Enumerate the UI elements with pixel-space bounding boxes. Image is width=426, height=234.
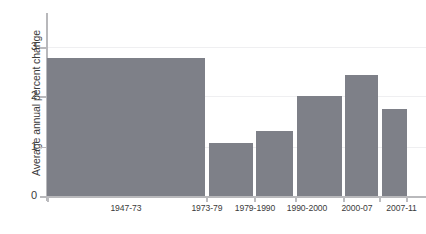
x-tick-mark-5 bbox=[379, 196, 381, 202]
x-category-label-1973-79: 1973-79 bbox=[183, 203, 231, 213]
y-tick-label-2: 2 bbox=[7, 90, 37, 101]
bar-1979-1990 bbox=[256, 131, 293, 196]
x-tick-mark-3 bbox=[295, 196, 297, 202]
x-category-label-1947-73: 1947-73 bbox=[47, 203, 205, 213]
bar-2007-11 bbox=[382, 109, 407, 196]
y-tick-label-1: 1 bbox=[7, 141, 37, 152]
x-category-label-2007-11: 2007-11 bbox=[379, 203, 424, 213]
plot-area bbox=[47, 13, 426, 196]
bar-1947-73 bbox=[47, 58, 205, 196]
x-category-label-1990-2000: 1990-2000 bbox=[281, 203, 333, 213]
y-tick-label-0: 0 bbox=[7, 190, 37, 201]
bar-1990-2000 bbox=[297, 96, 342, 196]
bar-chart: Average annual percent change 3 2 1 0 19… bbox=[0, 0, 426, 234]
bar-2000-07 bbox=[345, 75, 378, 196]
x-category-label-1979-1990: 1979-1990 bbox=[229, 203, 281, 213]
y-tick-label-3: 3 bbox=[7, 41, 37, 52]
x-axis-line bbox=[40, 196, 426, 198]
x-tick-mark-0 bbox=[47, 196, 49, 202]
x-tick-mark-6 bbox=[406, 196, 408, 202]
x-category-label-2000-07: 2000-07 bbox=[334, 203, 380, 213]
bar-1973-79 bbox=[209, 143, 253, 196]
x-tick-mark-4 bbox=[343, 196, 345, 202]
x-tick-mark-2 bbox=[254, 196, 256, 202]
x-tick-mark-1 bbox=[206, 196, 208, 202]
